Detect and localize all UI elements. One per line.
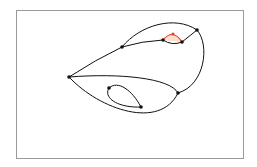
highlighted-node — [171, 32, 174, 35]
graph-diagram — [0, 0, 257, 167]
node-c — [161, 38, 165, 42]
node-h — [139, 105, 143, 109]
diagram-frame — [17, 11, 244, 159]
node-b — [120, 45, 124, 49]
node-a — [67, 75, 71, 79]
node-e — [195, 28, 199, 32]
node-f — [176, 91, 180, 95]
node-g — [107, 86, 111, 90]
node-d — [180, 40, 184, 44]
